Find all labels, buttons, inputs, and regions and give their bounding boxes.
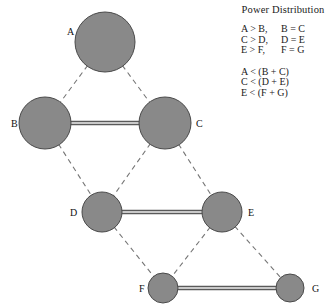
dashed-edge-a-c <box>122 65 150 103</box>
dashed-edge-c-e <box>178 144 211 196</box>
node-label-f: F <box>139 283 145 294</box>
node-g[interactable] <box>276 274 304 302</box>
node-label-b: B <box>11 118 18 129</box>
dashed-edge-d-f <box>114 227 154 277</box>
dashed-edge-e-f <box>172 227 211 277</box>
legend-spacer <box>241 56 334 67</box>
node-b[interactable] <box>19 97 71 149</box>
relation-row: E > F, F = G <box>241 45 334 56</box>
legend-title: Power Distribution <box>232 4 334 15</box>
relation-right: F = G <box>281 45 304 56</box>
legend-panel: Power Distribution A > B, B = C C > D, D… <box>232 4 334 98</box>
dashed-edge-b-d <box>58 144 91 196</box>
node-label-c: C <box>196 118 203 129</box>
relation-right: B = C <box>281 24 305 35</box>
dashed-edge-a-b <box>60 65 88 103</box>
node-e[interactable] <box>202 192 242 232</box>
node-label-d: D <box>70 207 77 218</box>
relation-left: E > F, <box>241 45 281 56</box>
inequality-row: E < (F + G) <box>241 88 334 99</box>
dashed-edge-c-d <box>113 143 151 196</box>
node-f[interactable] <box>148 273 178 303</box>
dashed-edge-e-g <box>235 226 282 278</box>
relation-left: A > B, <box>241 24 281 35</box>
relation-row: A > B, B = C <box>241 24 334 35</box>
node-d[interactable] <box>82 192 122 232</box>
node-label-a: A <box>67 26 75 37</box>
relations-block: A > B, B = C C > D, D = E E > F, F = G A… <box>232 24 334 98</box>
node-c[interactable] <box>139 97 191 149</box>
inequality-row: C < (D + E) <box>241 77 334 88</box>
node-a[interactable] <box>75 12 135 72</box>
node-label-g: G <box>312 283 319 294</box>
node-label-e: E <box>248 207 254 218</box>
